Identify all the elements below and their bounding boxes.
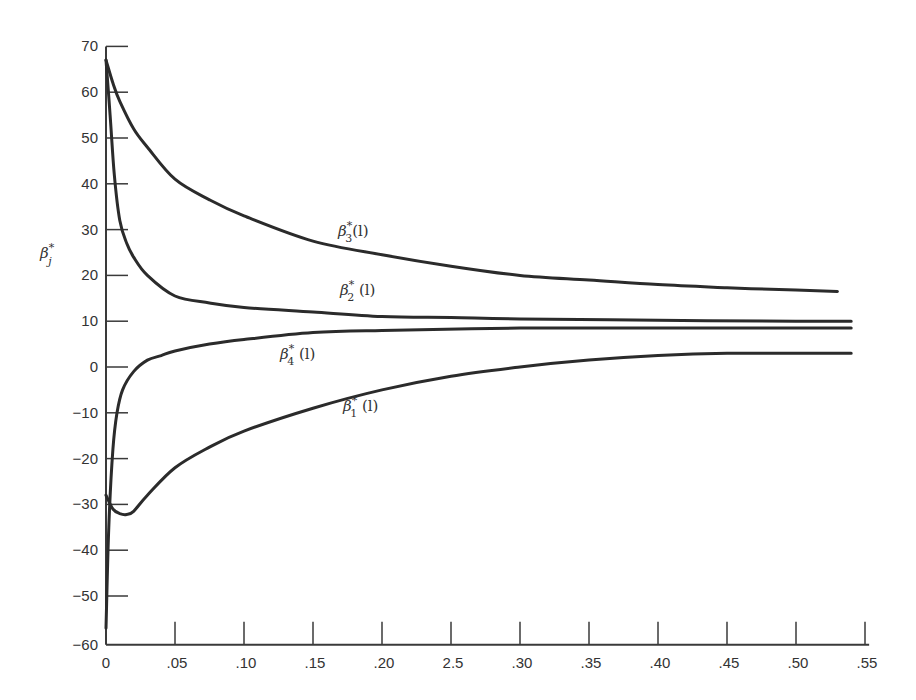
x-tick-label: .55 [857,654,878,671]
y-tick-label: 20 [81,266,98,283]
y-tick-label: −40 [73,541,98,558]
curve-beta3 [106,60,837,291]
x-tick-label: .50 [788,654,809,671]
x-tick-label: .10 [236,654,257,671]
y-tick-label: 60 [81,83,98,100]
x-tick-label: 2.5 [443,654,464,671]
y-tick-label: −60 [73,636,98,653]
y-tick-label: −10 [73,404,98,421]
y-tick-label: 10 [81,312,98,329]
line-chart: 706050403020100−10−20−30−40−50−60 0.05.1… [0,0,916,700]
curve-beta2 [106,60,851,321]
y-tick-label: 70 [81,37,98,54]
curves [106,60,851,628]
y-axis-label: β*j [39,241,55,268]
x-axis-ticks: 0.05.10.15.202.5.30.35.40.45.50.55 [102,622,878,671]
x-tick-label: .30 [512,654,533,671]
curve-label-beta3: β*3(l) [337,219,369,245]
y-tick-label: 40 [81,175,98,192]
y-axis-ticks: 706050403020100−10−20−30−40−50−60 [73,37,128,652]
y-tick-label: 50 [81,129,98,146]
y-tick-label: −30 [73,495,98,512]
curve-label-beta1: β*1 (l) [342,394,378,420]
y-tick-label: 30 [81,221,98,238]
y-tick-label: 0 [90,358,98,375]
curve-beta1 [106,353,851,515]
x-tick-label: .15 [305,654,326,671]
x-tick-label: .35 [581,654,602,671]
x-tick-label: .20 [374,654,395,671]
y-tick-label: −50 [73,587,98,604]
x-tick-label: .45 [719,654,740,671]
curve-label-beta2: β*2 (l) [339,278,375,304]
x-tick-label: .40 [650,654,671,671]
axes [106,46,869,644]
y-tick-label: −20 [73,450,98,467]
curve-label-beta4: β*4 (l) [279,342,315,368]
x-tick-label: 0 [102,654,110,671]
x-tick-label: .05 [167,654,188,671]
